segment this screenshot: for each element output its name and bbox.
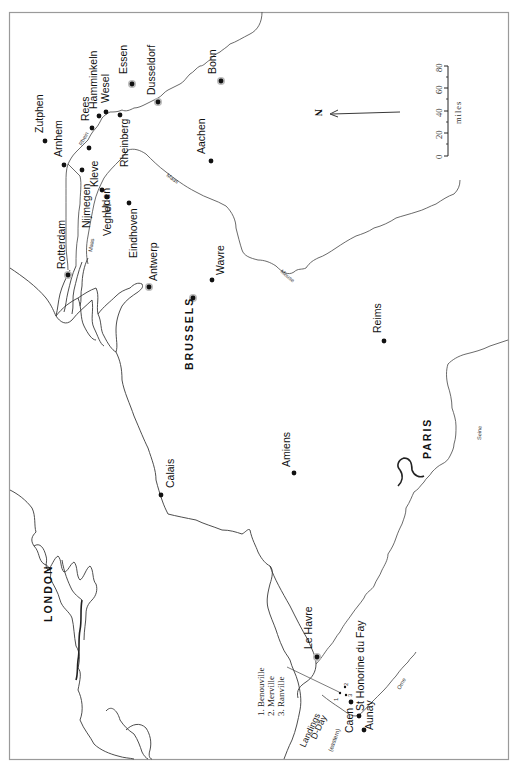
city-label-aunay: Aunay [363,699,375,730]
scale-tick-80: 80 [434,64,444,73]
city-dot-rees[interactable] [90,126,95,131]
city-label-hamminkeln: Hamminkeln [87,50,99,109]
city-dot-amiens[interactable] [292,471,297,476]
city-dot-le-havre[interactable] [315,655,320,660]
river-label-maas-lower: Maas [87,238,95,253]
dday-marker-label-2: 2 [343,682,349,686]
map-frame [10,13,509,760]
city-label-zutphen: Zutphen [33,94,45,133]
capital-label-london: LONDON [42,565,54,623]
city-dot-caen[interactable] [349,700,354,705]
city-dot-eindhoven[interactable] [127,201,132,206]
scale-tick-60: 60 [434,86,444,95]
city-label-antwerp: Antwerp [147,242,159,281]
city-label-kleve: Kleve [88,161,100,187]
city-dot-aachen[interactable] [209,159,214,164]
capital-label-brussels: BRUSSELS [183,297,195,370]
city-dot-rotterdam[interactable] [66,273,71,278]
dday-marker-label-1: 1 [333,697,339,701]
city-dot-st-honorine[interactable] [357,714,362,719]
city-label-rheinberg: Rheinberg [118,118,130,167]
seine-meanders [398,458,424,486]
city-dot-hamminkeln[interactable] [97,114,102,119]
scale-tick-0: 0 [434,155,444,159]
city-dot-antwerp[interactable] [147,285,152,290]
city-dot-wesel[interactable] [104,110,109,115]
river-label-seine: Seine [476,426,482,440]
city-label-dusseldorf: Dusseldorf [145,45,157,95]
thames-north-shore [62,560,97,640]
dday-eastern-label: (eastern) [327,728,341,753]
thames-river [76,600,82,680]
city-dot-dusseldorf[interactable] [156,100,161,105]
city-label-aachen: Aachen [195,118,207,154]
north-arrow: N [313,109,400,117]
city-label-wavre: Wavre [214,245,226,275]
isle-detail [126,724,152,759]
city-label-essen: Essen [117,45,129,74]
north-label: N [313,109,324,117]
dday-marker-label-3: 3 [347,693,353,697]
city-dot-reims[interactable] [382,339,387,344]
seine-river [316,340,508,664]
city-label-calais: Calais [164,459,176,488]
city-label-rotterdam: Rotterdam [55,220,67,269]
england-coastline [10,490,134,759]
scale-tick-40: 40 [434,109,444,118]
city-dot-zutphen[interactable] [43,139,48,144]
river-label-maas-upper: Maas [165,172,180,185]
capital-label-paris: PARIS [421,418,433,459]
city-label-bonn: Bonn [206,49,218,74]
city-dot-wavre[interactable] [210,278,215,283]
city-dot-arnhem[interactable] [62,163,67,168]
scale-bar: 0 20 40 60 80 miles [434,64,463,160]
city-label-nijmegen: Nijmegen [80,183,92,228]
city-dot-calais[interactable] [159,493,164,498]
dday-leader-line [287,667,339,692]
kent-coast [106,708,148,759]
city-label-reims: Reims [371,303,383,333]
city-dot-kleve[interactable] [87,146,92,151]
city-dot-rheinberg[interactable] [118,113,123,118]
map-canvas: Rhein Maas Maas Meuse Seine Orne Zutphen… [0,0,522,765]
city-dot-nijmegen[interactable] [80,168,85,173]
city-dot-bonn[interactable] [219,79,224,84]
scale-tick-20: 20 [434,131,444,140]
scale-unit-label: miles [453,101,463,124]
river-label-rhein: Rhein [78,131,90,147]
city-label-amiens: Amiens [280,432,292,467]
dday-legend-1: 1. Benouville [256,668,266,717]
dday-marker-1[interactable] [339,692,341,694]
waal-river [68,164,81,266]
river-label-meuse: Meuse [279,268,296,283]
dday-legend-2: 2. Merville [266,676,276,716]
city-label-arnhem: Arnhem [52,120,64,157]
city-label-wesel: Wesel [99,74,111,103]
city-label-st-honorine: St Honorine du Fay [354,620,366,711]
city-label-eindhoven: Eindhoven [127,208,139,258]
city-label-veghel: Veghel [101,204,113,236]
city-label-le-havre: Le Havre [302,606,314,649]
dday-legend-3: 3. Ranville [276,677,286,717]
city-dot-essen[interactable] [130,82,135,87]
river-label-orne: Orne [396,677,407,691]
